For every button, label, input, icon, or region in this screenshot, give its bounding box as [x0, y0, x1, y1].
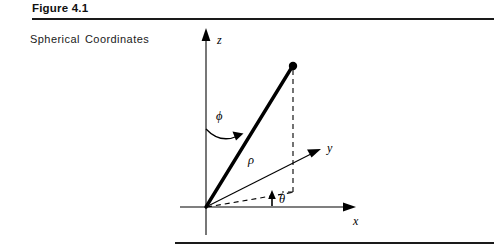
phi-arc: [206, 129, 238, 139]
x-axis-arrowhead: [343, 203, 356, 212]
y-axis-label: y: [326, 141, 333, 155]
theta-arrowhead: [268, 190, 276, 199]
point-marker: [289, 62, 297, 70]
rho-label: ρ: [247, 153, 254, 167]
theta-label: θ: [279, 192, 285, 206]
z-axis-arrowhead: [202, 28, 211, 41]
spherical-coordinates-diagram: z x y ρ ϕ: [0, 0, 494, 250]
phi-label: ϕ: [216, 109, 223, 123]
z-axis-label: z: [216, 33, 222, 47]
figure-page: Figure 4.1 Spherical Coordinates z x y: [0, 0, 494, 250]
rho-vector: ρ: [206, 62, 297, 207]
footer-divider: [175, 242, 494, 244]
y-axis-arrowhead: [307, 149, 321, 158]
x-axis-label: x: [352, 214, 359, 228]
phi-angle: ϕ: [206, 109, 244, 141]
phi-arrowhead: [233, 132, 244, 141]
theta-angle: θ: [268, 190, 285, 206]
